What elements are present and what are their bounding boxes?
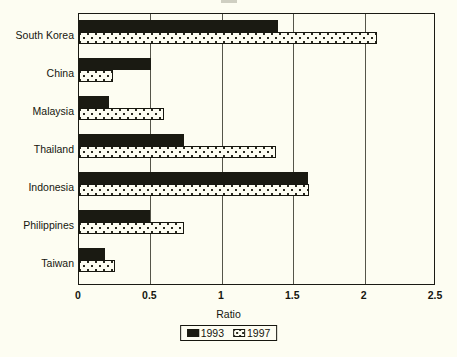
cropped-title-remnant [221, 0, 237, 3]
category-label-indonesia: Indonesia [0, 181, 74, 193]
bars-layer [79, 14, 434, 284]
chart-legend: 1993 1997 [180, 325, 278, 341]
bar-indonesia-1997 [79, 184, 309, 196]
x-axis-title: Ratio [0, 308, 457, 320]
category-label-philippines: Philippines [0, 219, 74, 231]
category-label-malaysia: Malaysia [0, 105, 74, 117]
bar-china-1993 [79, 58, 151, 70]
bar-philippines-1997 [79, 222, 184, 234]
bar-malaysia-1997 [79, 108, 164, 120]
bar-taiwan-1993 [79, 248, 105, 260]
bar-chart: South Korea China Malaysia Thailand Indo… [0, 0, 457, 357]
xtick-label-2.5: 2.5 [428, 289, 443, 301]
legend-swatch-1997-icon [233, 329, 245, 337]
legend-item-1997: 1997 [233, 327, 270, 339]
xtick-label-1: 1 [218, 289, 224, 301]
bar-thailand-1993 [79, 134, 184, 146]
legend-label-1997: 1997 [247, 327, 270, 339]
bar-malaysia-1993 [79, 96, 109, 108]
bar-south-korea-1997 [79, 32, 377, 44]
bar-south-korea-1993 [79, 20, 278, 32]
category-label-taiwan: Taiwan [0, 257, 74, 269]
legend-item-1993: 1993 [187, 327, 224, 339]
category-label-thailand: Thailand [0, 143, 74, 155]
xtick-label-0.5: 0.5 [142, 289, 157, 301]
xtick-label-1.5: 1.5 [285, 289, 300, 301]
y-axis-category-labels: South Korea China Malaysia Thailand Indo… [0, 13, 74, 285]
bar-philippines-1993 [79, 210, 150, 222]
bar-taiwan-1997 [79, 260, 115, 272]
bar-thailand-1997 [79, 146, 276, 158]
xtick-label-2: 2 [361, 289, 367, 301]
xtick-label-0: 0 [75, 289, 81, 301]
legend-swatch-1993-icon [187, 329, 199, 337]
legend-label-1993: 1993 [201, 327, 224, 339]
bar-indonesia-1993 [79, 172, 308, 184]
bar-china-1997 [79, 70, 113, 82]
category-label-china: China [0, 67, 74, 79]
category-label-south-korea: South Korea [0, 29, 74, 41]
